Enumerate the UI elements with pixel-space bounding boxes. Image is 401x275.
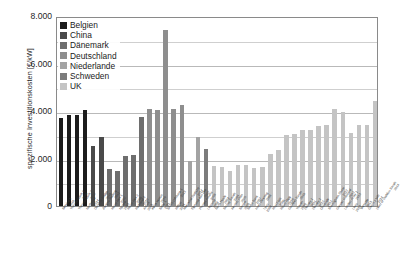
bar	[155, 110, 160, 206]
legend-item: Dänemark	[60, 40, 117, 50]
bar	[373, 101, 378, 206]
legend-label: Belgien	[70, 20, 98, 30]
legend-item: Belgien	[60, 20, 117, 30]
y-axis-tick-label: 6.000	[18, 59, 52, 69]
bar	[324, 125, 329, 206]
x-axis-tick-labels: Belwind 12010Thorntonbank 12009Thorntonb…	[56, 208, 378, 275]
legend-item: China	[60, 30, 117, 40]
legend-label: Niederlande	[70, 61, 115, 71]
y-axis-tick-label: 0	[18, 201, 52, 211]
bar	[171, 109, 176, 206]
legend-swatch	[60, 32, 67, 39]
legend-label: China	[70, 30, 92, 40]
bar	[308, 130, 313, 206]
legend-swatch	[60, 42, 67, 49]
legend-label: Schweden	[70, 71, 109, 81]
legend-swatch	[60, 52, 67, 59]
legend: BelgienChinaDänemarkDeutschlandNiederlan…	[58, 18, 120, 93]
bar	[59, 118, 64, 206]
bar	[332, 109, 337, 206]
legend-swatch	[60, 22, 67, 29]
bar	[147, 109, 152, 206]
legend-item: UK	[60, 81, 117, 91]
y-axis-tick-labels: 8.0006.0004.0002.0000	[14, 0, 52, 275]
legend-swatch	[60, 83, 67, 90]
bar	[163, 30, 168, 206]
legend-swatch	[60, 62, 67, 69]
y-axis-tick-label: 2.000	[18, 154, 52, 164]
legend-item: Deutschland	[60, 51, 117, 61]
legend-label: UK	[70, 81, 82, 91]
legend-label: Dänemark	[70, 40, 109, 50]
legend-swatch	[60, 73, 67, 80]
legend-item: Schweden	[60, 71, 117, 81]
bar	[67, 115, 72, 206]
legend-item: Niederlande	[60, 61, 117, 71]
bar	[316, 126, 321, 206]
bar	[139, 117, 144, 206]
y-axis-tick-label: 8.000	[18, 11, 52, 21]
legend-label: Deutschland	[70, 51, 117, 61]
bar	[365, 125, 370, 206]
y-axis-tick-label: 4.000	[18, 106, 52, 116]
